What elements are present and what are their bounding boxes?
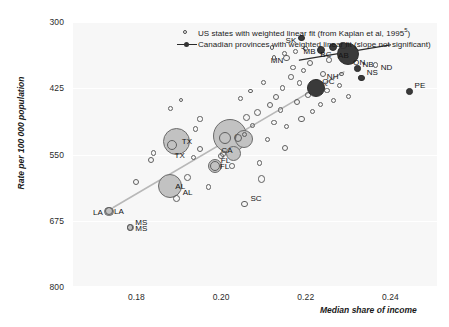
us-state-marker	[254, 109, 261, 116]
us-state-marker	[184, 174, 191, 181]
line-with-dot-icon	[176, 38, 198, 50]
us-state-marker	[310, 109, 315, 114]
x-tick-label: 0.18	[114, 292, 158, 302]
x-tick-label: 0.22	[284, 292, 328, 302]
us-state-marker	[151, 150, 157, 156]
us-state-marker	[271, 120, 276, 125]
us-state-marker	[241, 201, 247, 207]
point-label-nb: NB	[362, 60, 373, 69]
y-axis-label: Rate per 100 000 population	[16, 38, 26, 228]
point-label-al: AL	[183, 188, 193, 197]
legend-item-us-states: US states with weighted linear fit (from…	[176, 26, 431, 38]
y-tick-label: 800	[18, 282, 64, 292]
point-label-bc: BC	[320, 50, 331, 59]
us-state-marker	[206, 184, 212, 190]
us-state-marker	[193, 126, 198, 131]
point-label-nd: ND	[381, 63, 393, 72]
us-state-marker	[288, 74, 294, 80]
us-state-marker	[346, 94, 351, 99]
point-label-tx: TX	[174, 151, 184, 160]
us-state-marker	[290, 65, 295, 70]
legend-label-us-states: US states with weighted linear fit (from…	[198, 27, 410, 38]
x-axis-label: Median share of income	[320, 305, 417, 315]
us-state-marker	[257, 160, 262, 165]
canadian-province-marker	[406, 88, 413, 95]
us-state-marker	[168, 106, 173, 111]
us-state-marker	[242, 132, 247, 137]
us-state-marker	[278, 107, 283, 112]
us-state-marker	[173, 195, 180, 202]
y-tick-label: 300	[18, 17, 64, 27]
x-tick-label: 0.24	[368, 292, 412, 302]
point-label-tx: TX	[182, 137, 192, 146]
us-state-marker	[318, 102, 323, 107]
us-state-marker	[243, 114, 250, 121]
legend-item-canadian-provinces: Canadian provinces with weighted linear …	[176, 38, 431, 50]
scatter-chart-figure: LAMSALTXCAFLMSLAALSCFLTXCAMNNHNDQCONMBBC…	[0, 0, 449, 327]
point-label-ms: MS	[135, 218, 147, 227]
us-state-marker	[282, 145, 288, 151]
point-label-pe: PE	[414, 81, 425, 90]
us-state-marker	[297, 80, 302, 85]
us-state-marker	[258, 175, 266, 183]
us-state-marker	[229, 163, 235, 169]
us-state-marker	[373, 62, 378, 67]
point-label-ab: AB	[338, 51, 349, 60]
us-state-marker	[238, 96, 243, 101]
point-label-la: LA	[114, 207, 124, 216]
us-state-marker	[197, 116, 202, 121]
point-label-ns: NS	[367, 68, 378, 77]
x-tick-label: 0.20	[199, 292, 243, 302]
point-label-la: LA	[93, 208, 103, 217]
chart-legend: US states with weighted linear fit (from…	[176, 26, 431, 50]
us-state-marker	[307, 60, 313, 66]
canadian-province-marker	[354, 65, 360, 71]
point-label-sc: SC	[250, 194, 261, 203]
legend-label-canadian-provinces: Canadian provinces with weighted linear …	[198, 40, 431, 49]
us-state-marker	[280, 85, 286, 91]
point-label-qc: QC	[322, 77, 334, 86]
us-state-marker	[273, 94, 279, 100]
us-state-marker	[261, 80, 266, 85]
us-state-marker	[331, 98, 336, 103]
open-circle-icon	[176, 26, 198, 38]
